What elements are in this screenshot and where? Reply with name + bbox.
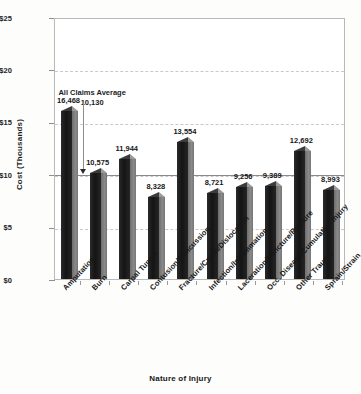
x-tick-mark — [284, 281, 285, 285]
y-tick-label: $10 — [0, 171, 12, 180]
y-tick-label: $5 — [0, 223, 12, 232]
y-tick-label: $25 — [0, 14, 12, 23]
y-axis-title: Cost (Thousands) — [15, 80, 24, 230]
average-leader-line — [83, 103, 84, 170]
bar-top-face — [148, 192, 165, 197]
bar-top-face — [323, 185, 340, 190]
bar-side-face — [247, 187, 253, 279]
bar — [119, 154, 136, 279]
bar-top-face — [236, 182, 253, 187]
bar-top-face — [90, 168, 107, 173]
x-tick-mark — [167, 281, 168, 285]
bar-value-label: 8,721 — [199, 178, 230, 187]
bar-side-face — [72, 111, 78, 279]
bar-front-face — [148, 197, 159, 279]
bar-chart: Cost (Thousands) $0$5$10$15$20$25 16,468… — [0, 0, 361, 394]
x-tick-mark — [138, 281, 139, 285]
bar-side-face — [334, 190, 340, 279]
gridline — [55, 71, 344, 72]
bar-side-face — [101, 173, 107, 279]
bar-value-label: 9,389 — [257, 171, 288, 180]
bar-side-face — [188, 142, 194, 279]
x-tick-mark — [109, 281, 110, 285]
x-tick-mark — [80, 281, 81, 285]
bar-top-face — [119, 154, 136, 159]
bar-value-label: 9,256 — [228, 172, 259, 181]
bar-top-face — [207, 188, 224, 193]
bar-top-face — [265, 181, 282, 186]
bar-top-face — [177, 137, 194, 142]
bar-value-label: 12,692 — [286, 136, 317, 145]
clipped-header-text — [248, 0, 358, 9]
bar-value-label: 11,944 — [111, 144, 142, 153]
average-annotation-label: All Claims Average — [58, 88, 125, 97]
bar-side-face — [130, 159, 136, 279]
y-tick-mark — [49, 280, 55, 281]
bar-value-label: 8,328 — [140, 182, 171, 191]
bar — [148, 192, 165, 279]
y-tick-label: $20 — [0, 66, 12, 75]
y-tick-label: $0 — [0, 276, 12, 285]
bar — [61, 106, 78, 279]
average-arrow-icon — [80, 169, 86, 174]
x-tick-mark — [196, 281, 197, 285]
average-annotation: All Claims Average 10,130 — [51, 88, 133, 107]
bar-front-face — [61, 111, 72, 279]
bar-value-label: 10,575 — [82, 158, 113, 167]
y-tick-label: $15 — [0, 118, 12, 127]
bar-value-label: 8,993 — [315, 175, 346, 184]
bar-side-face — [276, 186, 282, 279]
gridline — [55, 124, 344, 125]
bar-top-face — [294, 146, 311, 151]
bar-front-face — [119, 159, 130, 279]
bar-value-label: 13,554 — [169, 127, 200, 136]
x-tick-mark — [226, 281, 227, 285]
x-tick-mark — [313, 281, 314, 285]
bar-front-face — [207, 193, 218, 279]
x-tick-mark — [255, 281, 256, 285]
x-axis-title: Nature of Injury — [0, 374, 361, 383]
x-tick-mark — [342, 281, 343, 285]
